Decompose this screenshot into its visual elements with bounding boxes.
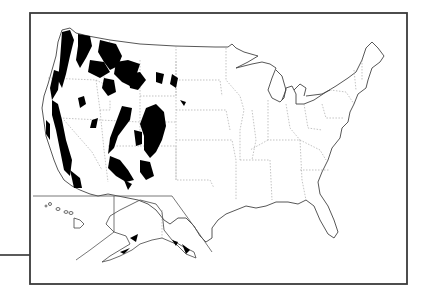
- map-figure: [0, 0, 430, 288]
